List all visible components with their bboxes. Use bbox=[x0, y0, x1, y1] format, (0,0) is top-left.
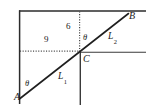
angle-label-theta-a: θ bbox=[25, 79, 29, 88]
diagram-canvas bbox=[0, 0, 146, 112]
angle-label-theta-c: θ bbox=[83, 33, 87, 42]
line-label-l1-base: L bbox=[58, 71, 63, 81]
point-label-a: A bbox=[14, 92, 20, 102]
point-label-c: C bbox=[83, 54, 90, 64]
line-label-l1: L1 bbox=[58, 72, 67, 83]
line-label-l2: L2 bbox=[108, 32, 117, 43]
measure-label-6: 6 bbox=[66, 22, 71, 31]
line-label-l2-subscript: 2 bbox=[114, 38, 117, 45]
line-label-l2-base: L bbox=[108, 31, 113, 41]
line-label-l1-subscript: 1 bbox=[64, 78, 67, 85]
point-label-b: B bbox=[129, 11, 135, 21]
geometry-diagram: A B C L1 L2 θ θ 9 6 bbox=[0, 0, 146, 112]
diagonal-line-ab bbox=[20, 14, 129, 99]
measure-label-9: 9 bbox=[44, 35, 49, 44]
